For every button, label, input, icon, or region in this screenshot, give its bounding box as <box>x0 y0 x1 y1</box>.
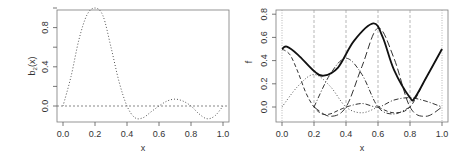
y-tick-label: 0.2 <box>259 78 269 91</box>
y-tick-label: 0.0 <box>40 100 50 113</box>
left-y-axis: 0.00.40.8 <box>40 8 57 112</box>
right-y-axis: 0.00.20.40.60.8 <box>259 8 276 113</box>
right-x-axis-label: x <box>360 143 365 153</box>
x-tick-label: 0.0 <box>276 129 289 139</box>
x-tick-label: 0.8 <box>404 129 417 139</box>
x-tick-label: 0.4 <box>340 129 353 139</box>
x-tick-label: 0.8 <box>185 129 198 139</box>
x-tick-label: 0.4 <box>121 129 134 139</box>
right-curves <box>282 23 442 116</box>
left-x-axis-label: x <box>141 143 146 153</box>
y-tick-label: 0.8 <box>259 8 269 21</box>
x-tick-label: 0.2 <box>89 129 102 139</box>
chart-canvas: 0.00.20.40.60.81.0 0.00.40.8 x b2(x) 0.0… <box>0 0 470 158</box>
y-tick-label: 0.4 <box>40 61 50 74</box>
x-tick-label: 0.6 <box>153 129 166 139</box>
left-y-axis-label: b2(x) <box>27 57 38 76</box>
x-tick-label: 1.0 <box>217 129 230 139</box>
sum-curve <box>282 23 442 100</box>
y-tick-label: 0.8 <box>40 21 50 34</box>
y-tick-label: 0.4 <box>259 54 269 67</box>
y-tick-label: 0.6 <box>259 31 269 44</box>
left-basis-curve <box>63 8 223 119</box>
x-tick-label: 0.6 <box>372 129 385 139</box>
x-tick-label: 0.0 <box>57 129 70 139</box>
basis-curve <box>282 75 378 113</box>
right-x-axis: 0.00.20.40.60.81.0 <box>276 122 449 139</box>
y-tick-label: 0.0 <box>259 101 269 114</box>
left-panel: 0.00.20.40.60.81.0 0.00.40.8 x b2(x) <box>27 8 229 153</box>
left-x-axis: 0.00.20.40.60.81.0 <box>57 122 230 139</box>
x-tick-label: 1.0 <box>436 129 449 139</box>
right-y-axis-label: f <box>244 60 254 63</box>
right-panel: 0.00.20.40.60.81.0 0.00.20.40.60.8 x f <box>244 8 448 153</box>
basis-curve <box>346 98 442 107</box>
x-tick-label: 0.2 <box>308 129 321 139</box>
